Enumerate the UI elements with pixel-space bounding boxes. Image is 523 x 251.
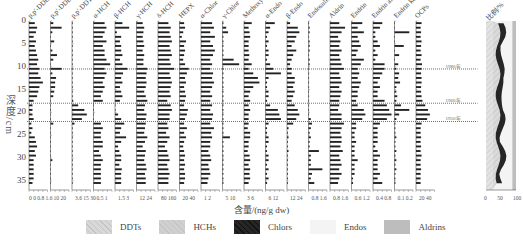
- y-tick-label: 0: [6, 15, 26, 25]
- panel-13: [309, 21, 328, 192]
- panel-5: [137, 21, 156, 192]
- ocp-depth-profile-figure: 深度/cm 含量/(ng/g dw) DDTsHCHsChlorsEndosAl…: [0, 0, 523, 251]
- x-axis-label: 含量/(ng/g dw): [0, 203, 523, 216]
- legend-item: HCHs: [159, 220, 216, 234]
- y-tick-label: 25: [6, 129, 26, 139]
- x-tick-labels: 20 40: [419, 195, 431, 201]
- x-tick-labels: 0.1 0.2: [398, 195, 413, 201]
- panel-17: [395, 21, 414, 192]
- y-tick-label: 20: [6, 106, 26, 116]
- panel-2: [72, 21, 91, 192]
- legend-swatch: [86, 220, 112, 234]
- panel-10: [244, 21, 263, 192]
- x-tick-labels: 3.6 15 30: [75, 195, 96, 201]
- proportion-panel: [486, 21, 516, 190]
- x-tick-labels: 1 2: [204, 195, 211, 201]
- panel-9: [223, 21, 242, 192]
- legend-swatch: [234, 220, 260, 234]
- legend-item: Endos: [310, 220, 367, 234]
- y-tick-label: 5: [6, 38, 26, 48]
- panel-3: [94, 21, 113, 192]
- date-marker-label: 1960年: [446, 96, 461, 103]
- legend-item: Chlors: [234, 220, 292, 234]
- legend-swatch: [159, 220, 185, 234]
- legend-label: DDTs: [120, 222, 141, 232]
- legend-label: Endos: [344, 222, 367, 232]
- x-tick-labels: 5 10: [226, 195, 236, 201]
- legend-label: Chlors: [268, 222, 292, 232]
- y-tick-label: 10: [6, 61, 26, 71]
- x-tick-labels: 0 0 0.8 1.6: [29, 195, 52, 201]
- panel-8: [201, 21, 220, 192]
- x-tick-labels: 12 24: [290, 195, 302, 201]
- x-tick-labels: 12 24: [140, 195, 152, 201]
- x-tick-labels: 0.8 1.6: [333, 195, 348, 201]
- x-tick-labels: 0.5 1: [97, 195, 108, 201]
- y-tick-label: 15: [6, 84, 26, 94]
- x-tick-labels: 80 160: [161, 195, 176, 201]
- panel-0: [29, 21, 48, 192]
- y-tick-label: 30: [6, 152, 26, 162]
- panel-16: [373, 21, 392, 192]
- panel-7: [180, 21, 199, 192]
- legend-item: Aldrins: [384, 220, 445, 234]
- legend-swatch: [384, 220, 410, 234]
- x-tick-labels: 0.8 1.6: [312, 195, 327, 201]
- panel-12: [287, 21, 306, 192]
- x-tick-labels: 6 12: [269, 195, 279, 201]
- x-tick-labels: 10 20: [54, 195, 66, 201]
- proportion-x-ticks: 0 50 100: [484, 195, 521, 201]
- panel-15: [352, 21, 371, 192]
- x-tick-labels: 0.4 0.8: [376, 195, 391, 201]
- panel-6: [158, 21, 177, 192]
- legend-swatch: [310, 220, 336, 234]
- x-tick-labels: 3 6: [247, 195, 254, 201]
- date-marker-label: 1950年: [446, 114, 461, 121]
- panel-14: [330, 21, 349, 192]
- panel-1: [51, 21, 70, 192]
- x-tick-labels: 1.5 3: [118, 195, 129, 201]
- legend-label: HCHs: [193, 222, 216, 232]
- y-tick-label: 35: [6, 175, 26, 185]
- legend-label: Aldrins: [418, 222, 445, 232]
- x-tick-labels: 0.6 1.2: [355, 195, 370, 201]
- legend: DDTsHCHsChlorsEndosAldrins: [86, 220, 463, 234]
- panel-11: [266, 21, 285, 192]
- x-tick-labels: 20 40: [183, 195, 195, 201]
- date-marker-label: 1980年: [446, 62, 461, 69]
- legend-item: DDTs: [86, 220, 141, 234]
- panel-18: [416, 21, 435, 192]
- panel-4: [115, 21, 134, 192]
